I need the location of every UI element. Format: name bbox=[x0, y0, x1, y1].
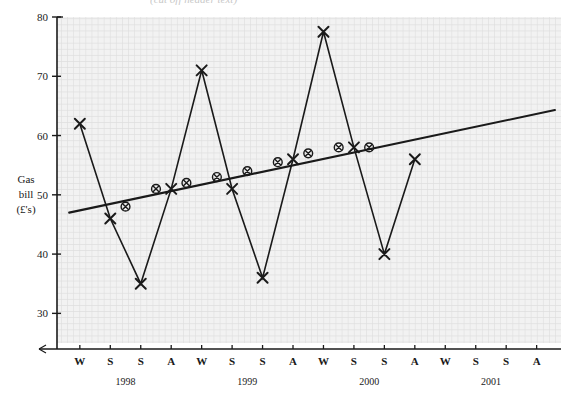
x-tick-label: S bbox=[138, 355, 144, 367]
x-axis: WSSAWSSAWSSAWSSA1998199920002001 bbox=[39, 345, 561, 387]
x-tick-label: A bbox=[167, 355, 175, 367]
x-tick-label: W bbox=[318, 355, 329, 367]
y-tick-label: 50 bbox=[37, 189, 49, 201]
x-tick-label: S bbox=[351, 355, 357, 367]
x-tick-label: S bbox=[381, 355, 387, 367]
x-axis-year-label: 1999 bbox=[237, 376, 257, 387]
x-tick-label: A bbox=[289, 355, 297, 367]
y-tick-label: 30 bbox=[37, 307, 49, 319]
x-tick-label: S bbox=[229, 355, 235, 367]
y-axis-title: Gasbill(£'s) bbox=[16, 173, 35, 216]
y-axis-title-line: Gas bbox=[17, 173, 34, 185]
x-tick-label: W bbox=[440, 355, 451, 367]
y-tick-label: 70 bbox=[37, 70, 49, 82]
plot-background bbox=[57, 17, 561, 343]
y-axis-title-line: bill bbox=[19, 188, 34, 200]
y-tick-label: 60 bbox=[37, 130, 49, 142]
y-tick-label: 80 bbox=[37, 11, 49, 23]
x-tick-label: A bbox=[411, 355, 419, 367]
x-tick-label: S bbox=[107, 355, 113, 367]
gas-bill-chart: 304050607080 WSSAWSSAWSSAWSSA19981999200… bbox=[0, 0, 564, 395]
x-tick-label: A bbox=[533, 355, 541, 367]
y-axis-title-line: (£'s) bbox=[16, 203, 35, 216]
x-axis-year-label: 1998 bbox=[116, 376, 136, 387]
x-tick-label: S bbox=[503, 355, 509, 367]
x-axis-year-label: 2001 bbox=[481, 376, 501, 387]
x-tick-label: W bbox=[196, 355, 207, 367]
x-tick-label: W bbox=[74, 355, 85, 367]
x-axis-year-label: 2000 bbox=[359, 376, 379, 387]
x-tick-label: S bbox=[259, 355, 265, 367]
y-tick-label: 40 bbox=[37, 248, 49, 260]
x-tick-label: S bbox=[473, 355, 479, 367]
chart-svg: 304050607080 WSSAWSSAWSSAWSSA19981999200… bbox=[0, 0, 564, 395]
